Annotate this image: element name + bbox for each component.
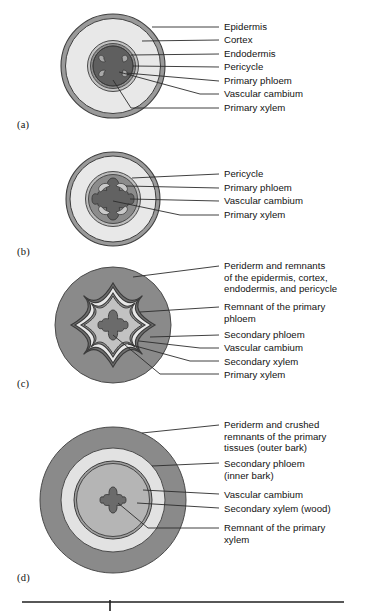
label-d-secondary-xylem-wood: Secondary xylem (wood) xyxy=(224,503,331,515)
label-a-epidermis: Epidermis xyxy=(224,21,267,33)
label-a-cortex: Cortex xyxy=(224,34,253,46)
label-c-vascular-cambium: Vascular cambium xyxy=(224,342,303,354)
label-d-remnant-primary-xylem: Remnant of the primary xylem xyxy=(224,522,325,545)
label-c-secondary-xylem: Secondary xylem xyxy=(224,356,298,368)
label-a-vascular-cambium: Vascular cambium xyxy=(224,88,303,100)
label-a-pericycle: Pericycle xyxy=(224,61,263,73)
label-d-periderm-outer-bark: Periderm and crushed remnants of the pri… xyxy=(224,419,326,454)
label-b-primary-xylem: Primary xylem xyxy=(224,209,285,221)
label-b-primary-phloem: Primary phloem xyxy=(224,182,292,194)
label-a-endodermis: Endodermis xyxy=(224,48,276,60)
label-c-remnant-primary-phloem: Remnant of the primary phloem xyxy=(224,301,325,324)
label-a-primary-phloem: Primary phloem xyxy=(224,75,292,87)
label-d-vascular-cambium: Vascular cambium xyxy=(224,489,303,501)
label-c-periderm-remnants: Periderm and remnants of the epidermis, … xyxy=(224,260,337,295)
label-a-primary-xylem: Primary xylem xyxy=(224,102,285,114)
label-b-vascular-cambium: Vascular cambium xyxy=(224,195,303,207)
label-d-secondary-phloem-inner-bark: Secondary phloem (inner bark) xyxy=(224,458,305,481)
label-c-primary-xylem: Primary xylem xyxy=(224,369,285,381)
label-c-secondary-phloem: Secondary phloem xyxy=(224,329,305,341)
root-secondary-growth-figure: (a) (b) (c) (d) Epidermis Cortex Endoder… xyxy=(0,0,366,615)
label-b-pericycle: Pericycle xyxy=(224,168,263,180)
label-layer: Epidermis Cortex Endodermis Pericycle Pr… xyxy=(0,0,366,615)
